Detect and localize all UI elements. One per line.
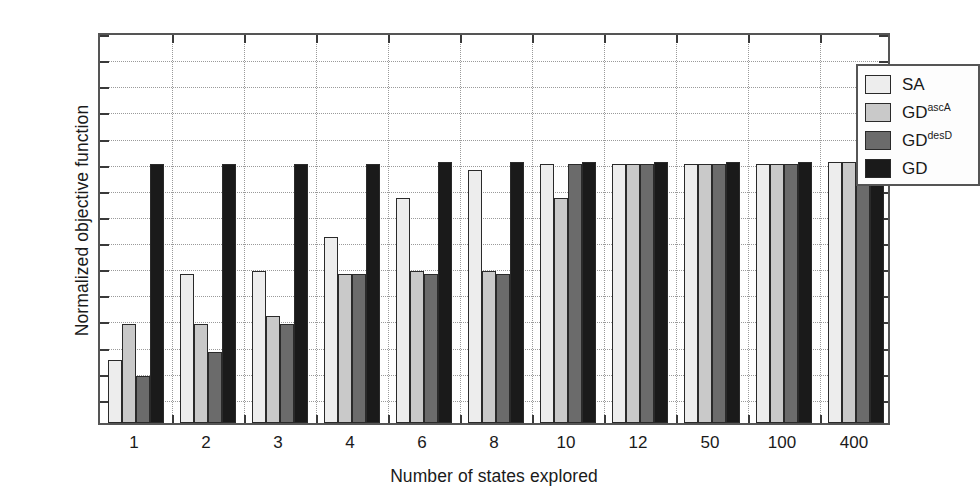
x-tick-label: 400 bbox=[809, 433, 899, 453]
legend-item: GD bbox=[858, 154, 978, 182]
bar bbox=[582, 162, 596, 423]
bar bbox=[252, 271, 266, 423]
bar bbox=[324, 237, 338, 423]
bar bbox=[612, 164, 626, 423]
chart-legend: SAGDascAGDdesDGD bbox=[856, 64, 980, 186]
bar bbox=[712, 164, 726, 423]
legend-item: GDdesD bbox=[858, 126, 978, 154]
bar bbox=[510, 162, 524, 423]
bar bbox=[108, 360, 122, 423]
bar bbox=[684, 164, 698, 423]
bar bbox=[222, 164, 236, 423]
legend-label: SA bbox=[902, 76, 925, 93]
x-axis-title: Number of states explored bbox=[98, 466, 890, 487]
bar bbox=[266, 316, 280, 423]
bar bbox=[756, 164, 770, 423]
bar bbox=[828, 162, 842, 423]
legend-swatch bbox=[865, 75, 891, 94]
legend-swatch bbox=[865, 159, 891, 178]
bar bbox=[798, 162, 812, 423]
legend-item: GDascA bbox=[858, 98, 978, 126]
bar bbox=[726, 162, 740, 423]
bar bbox=[396, 198, 410, 423]
bar bbox=[698, 164, 712, 423]
bar bbox=[496, 274, 510, 423]
bar bbox=[366, 164, 380, 423]
bar bbox=[410, 271, 424, 423]
bars-layer bbox=[100, 35, 888, 423]
bar bbox=[540, 164, 554, 423]
bar bbox=[842, 162, 856, 423]
bar bbox=[482, 271, 496, 423]
bar bbox=[554, 198, 568, 423]
bar bbox=[626, 164, 640, 423]
y-axis-title: Normalized objective function bbox=[72, 21, 93, 421]
bar bbox=[136, 376, 150, 423]
bar bbox=[122, 324, 136, 423]
bar bbox=[150, 164, 164, 423]
legend-swatch bbox=[865, 103, 891, 122]
legend-label: GDdesD bbox=[902, 132, 952, 149]
bar bbox=[654, 162, 668, 423]
legend-swatch bbox=[865, 131, 891, 150]
bar bbox=[640, 164, 654, 423]
bar bbox=[194, 324, 208, 423]
bar bbox=[856, 164, 870, 423]
bar bbox=[424, 274, 438, 423]
bar bbox=[280, 324, 294, 423]
bar bbox=[568, 164, 582, 423]
bar bbox=[208, 352, 222, 423]
bar bbox=[294, 164, 308, 423]
legend-item: SA bbox=[858, 70, 978, 98]
bar bbox=[180, 274, 194, 423]
bar bbox=[352, 274, 366, 423]
bar bbox=[770, 164, 784, 423]
bar bbox=[870, 164, 884, 423]
bar bbox=[468, 170, 482, 423]
legend-label: GD bbox=[902, 160, 928, 177]
bar bbox=[438, 162, 452, 423]
plot-area: SAGDascAGDdesDGD bbox=[98, 33, 890, 425]
bar bbox=[784, 164, 798, 423]
legend-label: GDascA bbox=[902, 104, 951, 121]
bar bbox=[338, 274, 352, 423]
